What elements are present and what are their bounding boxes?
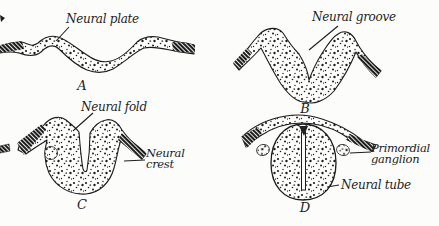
stage-c-drawing: [17, 113, 146, 194]
primordial-ganglion-label-line2: ganglion: [371, 154, 430, 165]
neural-groove-right-tip: [357, 54, 381, 78]
neural-crest-label-line2: crest: [146, 159, 185, 170]
neural-groove-label: Neural groove: [312, 11, 396, 23]
primordial-ganglion-left-shape: [255, 143, 270, 157]
neural-groove-shape: [234, 28, 381, 103]
embryo-neurulation-figure: Neural plate Neural groove Neural fold N…: [0, 0, 439, 226]
neural-fold-right-tip: [118, 133, 146, 160]
embryo-diagram-canvas: [0, 0, 439, 226]
page-edge-ink-mark-top: [0, 15, 5, 22]
neural-plate-shape: [0, 36, 194, 72]
neural-crest-leader-line: [124, 160, 145, 161]
stage-a-letter: A: [74, 79, 90, 92]
neural-tube-label: Neural tube: [341, 179, 411, 191]
primordial-ganglion-leader-line: [350, 152, 371, 153]
page-edge-ink-mark-c: [0, 144, 10, 153]
neural-canal-slit: [302, 132, 306, 190]
neural-fold-label: Neural fold: [81, 101, 147, 113]
neural-plate-label: Neural plate: [66, 13, 139, 25]
stage-a-drawing: [0, 27, 195, 72]
stage-b-drawing: [233, 26, 381, 103]
stage-d-letter: D: [297, 201, 313, 214]
neural-fold-leader-line: [74, 113, 93, 130]
stage-b-letter: B: [297, 102, 313, 115]
neural-crest-label: Neural crest: [146, 148, 185, 170]
primordial-ganglion-label: Primordial ganglion: [371, 143, 430, 165]
stage-c-letter: C: [74, 198, 90, 211]
primordial-ganglion-right-shape: [335, 143, 350, 157]
neural-fold-curl-blob: [45, 147, 58, 160]
